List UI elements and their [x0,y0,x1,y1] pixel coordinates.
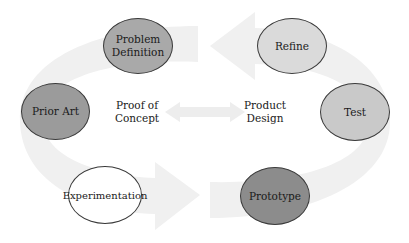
node-test: Test [320,83,390,141]
node-label: Problem [112,33,164,46]
label-line: Proof of [97,99,177,112]
node-problem-definition: Problem Definition [103,18,173,74]
node-label: Prior Art [32,105,79,118]
node-prior-art: Prior Art [21,83,90,140]
product-design-label: Product Design [225,99,305,125]
proof-of-concept-label: Proof of Concept [97,99,177,125]
node-label: Refine [275,40,309,53]
node-prototype: Prototype [240,167,310,225]
node-experimentation: Experimentation [68,166,142,224]
node-label: Definition [112,46,164,59]
node-label: Test [344,106,366,119]
label-line: Product [225,99,305,112]
node-label: Experimentation [63,189,148,202]
label-line: Design [225,112,305,125]
label-line: Concept [97,112,177,125]
node-refine: Refine [257,18,327,74]
node-label: Prototype [249,190,301,203]
